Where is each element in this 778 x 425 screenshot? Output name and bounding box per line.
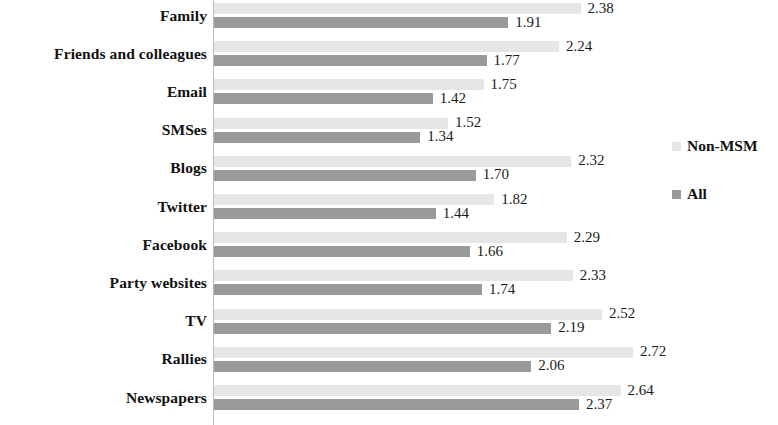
bar-all	[214, 17, 508, 28]
bar-non-msm	[214, 156, 571, 167]
legend-swatch-icon	[672, 142, 681, 151]
bar-all	[214, 170, 476, 181]
bar-value-label: 1.44	[443, 206, 469, 221]
bar-value-label: 1.52	[455, 115, 481, 130]
bar-non-msm	[214, 194, 494, 205]
bar-chart: FamilyFriends and colleaguesEmailSMSesBl…	[0, 0, 778, 425]
bar-all	[214, 284, 482, 295]
bar-value-label: 1.42	[440, 91, 466, 106]
bar-value-label: 2.24	[566, 39, 592, 54]
bar-value-label: 1.75	[491, 77, 517, 92]
bar-value-label: 1.66	[477, 244, 503, 259]
bar-value-label: 1.70	[483, 167, 509, 182]
bar-non-msm	[214, 309, 602, 320]
bar-value-label: 2.33	[580, 268, 606, 283]
bar-value-label: 2.52	[609, 306, 635, 321]
bar-value-label: 2.37	[586, 397, 612, 412]
bar-all	[214, 93, 433, 104]
plot-area: FamilyFriends and colleaguesEmailSMSesBl…	[0, 0, 778, 425]
bar-all	[214, 361, 531, 372]
bar-value-label: 2.72	[640, 344, 666, 359]
bar-non-msm	[214, 41, 559, 52]
bar-value-label: 2.32	[578, 153, 604, 168]
bar-value-label: 2.19	[558, 320, 584, 335]
legend-label: All	[687, 186, 707, 202]
bar-all	[214, 55, 487, 66]
bar-non-msm	[214, 79, 484, 90]
bar-value-label: 1.82	[501, 192, 527, 207]
bar-value-label: 1.77	[494, 53, 520, 68]
bar-value-label: 2.38	[588, 1, 614, 16]
bar-all	[214, 399, 579, 410]
bar-non-msm	[214, 270, 573, 281]
legend-item-all[interactable]: All	[672, 186, 707, 202]
bar-all	[214, 323, 551, 334]
bar-non-msm	[214, 385, 621, 396]
bar-non-msm	[214, 347, 633, 358]
bar-all	[214, 246, 470, 257]
bar-non-msm	[214, 232, 567, 243]
legend-swatch-icon	[672, 190, 681, 199]
bar-value-label: 1.74	[489, 282, 515, 297]
bar-all	[214, 132, 420, 143]
bar-value-label: 2.29	[574, 230, 600, 245]
bar-value-label: 1.91	[515, 15, 541, 30]
bar-value-label: 2.64	[628, 383, 654, 398]
bar-non-msm	[214, 118, 448, 129]
bar-value-label: 2.06	[538, 358, 564, 373]
legend-label: Non-MSM	[687, 138, 758, 154]
bar-value-label: 1.34	[427, 129, 453, 144]
bars-layer: 2.381.912.241.771.751.421.521.342.321.70…	[0, 0, 778, 425]
bar-non-msm	[214, 3, 581, 14]
bar-all	[214, 208, 436, 219]
legend-item-non-msm[interactable]: Non-MSM	[672, 138, 758, 154]
